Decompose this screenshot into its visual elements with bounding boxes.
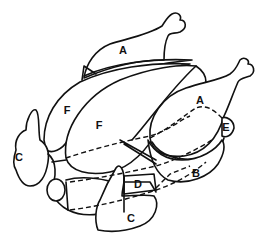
label-a-top: A	[119, 45, 127, 56]
label-a-right: A	[196, 95, 204, 106]
wing-c-left	[14, 110, 49, 186]
label-c-left: C	[15, 152, 23, 163]
label-f-center: F	[96, 120, 103, 131]
poultry-diagram	[0, 0, 273, 246]
label-d: D	[134, 179, 142, 190]
label-c-bottom: C	[127, 213, 135, 224]
label-b: B	[192, 168, 200, 179]
small-round-part	[47, 179, 65, 201]
label-f-left: F	[64, 105, 71, 116]
label-e: E	[222, 122, 229, 133]
